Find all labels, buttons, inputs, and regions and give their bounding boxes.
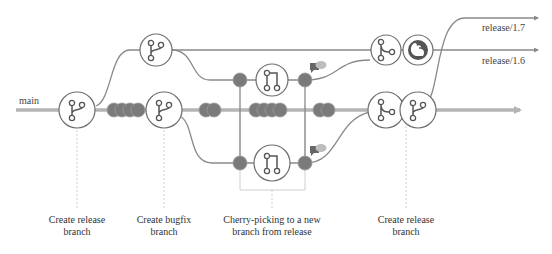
- node-pr-top[interactable]: [256, 64, 288, 96]
- caption-line: branch: [124, 226, 204, 238]
- caption-line: Cherry-picking to a new: [212, 214, 332, 226]
- node-create-release-2[interactable]: [400, 92, 436, 128]
- caption-create-release-2: Create release branch: [366, 214, 446, 238]
- caption-cherry-pick: Cherry-picking to a new branch from rele…: [212, 214, 332, 238]
- caption-create-bugfix: Create bugfix branch: [124, 214, 204, 238]
- branch-label-release-1-6: release/1.6: [482, 55, 525, 66]
- branch-label-release-1-7: release/1.7: [482, 22, 525, 33]
- node-pr-bottom[interactable]: [254, 145, 290, 181]
- node-release-top[interactable]: [140, 34, 172, 66]
- node-squirrel[interactable]: [403, 35, 433, 65]
- comment-icon: [310, 61, 327, 73]
- caption-line: Create release: [366, 214, 446, 226]
- squirrel-icon: [408, 40, 428, 60]
- node-merge-top[interactable]: [371, 35, 401, 65]
- node-create-bugfix[interactable]: [146, 92, 182, 128]
- node-create-release[interactable]: [59, 92, 95, 128]
- node-merge-main[interactable]: [368, 92, 404, 128]
- caption-create-release: Create release branch: [37, 214, 117, 238]
- branch-label-main: main: [19, 95, 39, 106]
- comment-icon: [310, 144, 327, 156]
- caption-line: branch: [37, 226, 117, 238]
- caption-line: branch: [366, 226, 446, 238]
- caption-line: Create release: [37, 214, 117, 226]
- caption-line: branch from release: [212, 226, 332, 238]
- caption-line: Create bugfix: [124, 214, 204, 226]
